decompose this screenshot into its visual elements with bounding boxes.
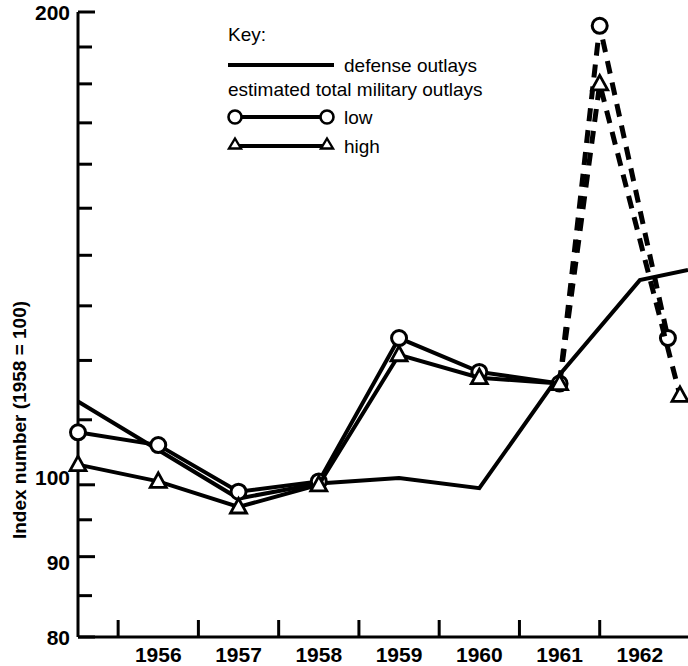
chart-figure: 200 100 90 80 Index number (1958 = 100) … — [0, 0, 688, 666]
y-tick-label-100: 100 — [35, 466, 70, 489]
legend-circle-marker-icon — [229, 111, 242, 124]
y-axis-title: Index number (1958 = 100) — [9, 301, 30, 539]
x-tick-label-1959: 1959 — [376, 643, 423, 666]
x-tick-label-1961: 1961 — [536, 643, 583, 666]
legend-label-low: low — [344, 107, 373, 128]
legend-title: Key: — [228, 24, 266, 45]
x-tick-label-1962: 1962 — [616, 643, 663, 666]
legend-label-defense-outlays: defense outlays — [344, 55, 477, 76]
data-point-circle-marker — [151, 438, 166, 453]
legend-group-label: estimated total military outlays — [228, 79, 483, 100]
x-tick-label-1956: 1956 — [135, 643, 182, 666]
data-point-circle-marker — [392, 331, 407, 346]
x-tick-label-1957: 1957 — [215, 643, 262, 666]
y-tick-label-90: 90 — [47, 551, 70, 574]
legend-label-high: high — [344, 136, 380, 157]
x-tick-label-1958: 1958 — [295, 643, 342, 666]
x-tick-label-1960: 1960 — [456, 643, 503, 666]
legend-circle-marker-icon — [321, 111, 334, 124]
y-tick-label-80: 80 — [47, 626, 70, 649]
data-point-circle-marker — [592, 18, 607, 33]
y-tick-label-200: 200 — [35, 1, 70, 24]
index-number-line-chart: 200 100 90 80 Index number (1958 = 100) … — [0, 0, 688, 666]
data-point-circle-marker — [71, 425, 86, 440]
